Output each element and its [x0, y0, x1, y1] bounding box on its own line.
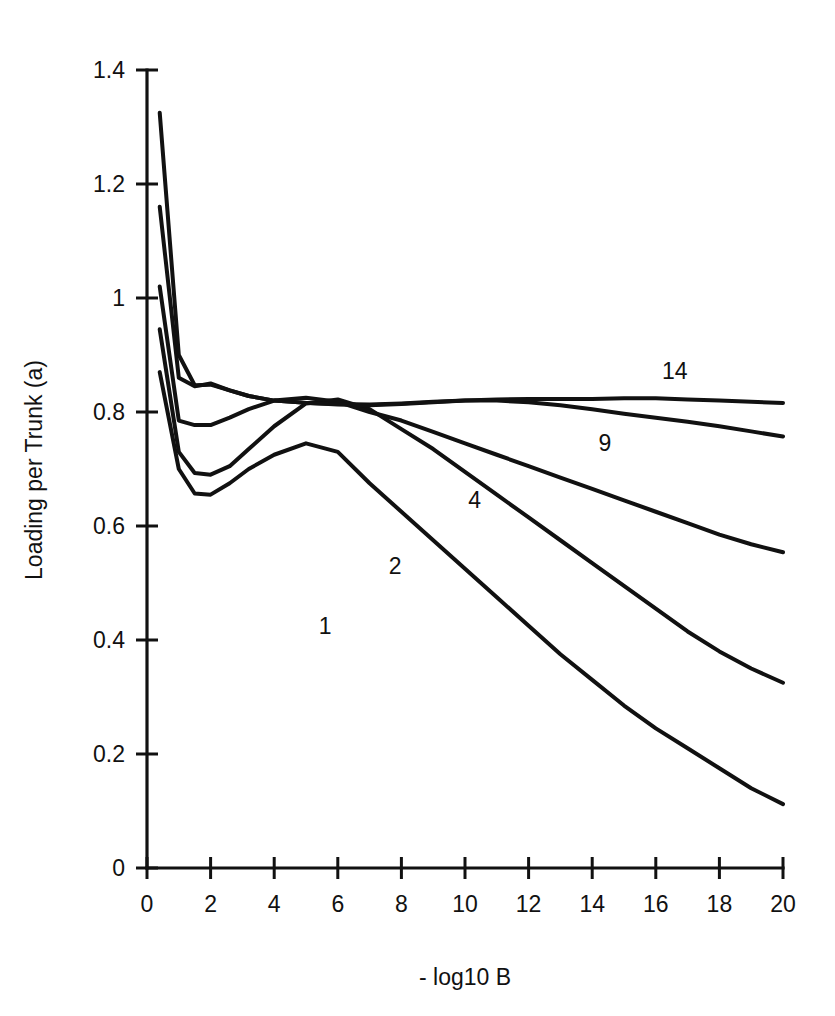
x-tick-label: 16: [643, 891, 669, 917]
series-label-1: 1: [319, 613, 332, 639]
x-axis-title: - log10 B: [419, 964, 511, 990]
x-tick-label: 12: [516, 891, 542, 917]
y-tick-label: 1: [112, 285, 125, 311]
y-tick-label: 1.4: [93, 57, 125, 83]
x-tick-label: 18: [707, 891, 733, 917]
y-tick-label: 1.2: [93, 171, 125, 197]
x-tick-label: 2: [204, 891, 217, 917]
x-tick-label: 10: [452, 891, 478, 917]
series-label-2: 2: [389, 553, 402, 579]
y-axis-title: Loading per Trunk (a): [21, 360, 47, 580]
y-tick-label: 0.2: [93, 741, 125, 767]
x-axis-tick-labels: 02468101214161820: [141, 891, 796, 917]
x-tick-label: 20: [770, 891, 796, 917]
data-curve-14: [160, 113, 783, 405]
y-tick-label: 0: [112, 855, 125, 881]
series-label-9: 9: [599, 430, 612, 456]
x-tick-label: 4: [268, 891, 281, 917]
data-curve-1: [160, 372, 783, 804]
chart-figure: 02468101214161820 00.20.40.60.811.21.4 1…: [0, 0, 835, 1016]
chart-data-curves: [160, 113, 783, 804]
y-tick-label: 0.6: [93, 513, 125, 539]
line-chart-plot: 02468101214161820 00.20.40.60.811.21.4 1…: [0, 0, 835, 1016]
series-label-4: 4: [468, 487, 481, 513]
chart-tick-marks: [136, 70, 783, 879]
y-tick-label: 0.4: [93, 627, 125, 653]
x-tick-label: 0: [141, 891, 154, 917]
x-tick-label: 8: [395, 891, 408, 917]
x-tick-label: 6: [331, 891, 344, 917]
x-tick-label: 14: [579, 891, 605, 917]
y-axis-tick-labels: 00.20.40.60.811.21.4: [93, 57, 125, 881]
series-label-14: 14: [662, 358, 688, 384]
y-tick-label: 0.8: [93, 399, 125, 425]
